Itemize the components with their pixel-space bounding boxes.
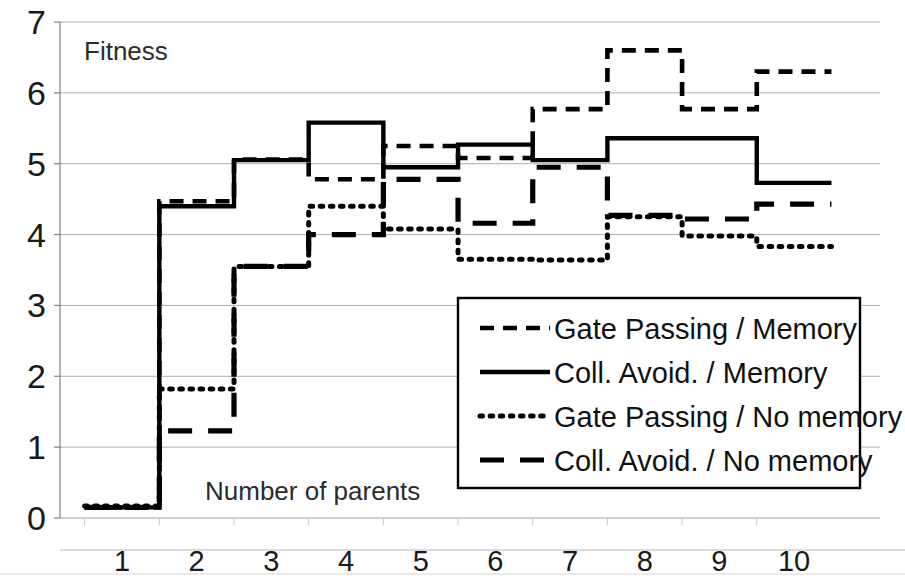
x-tick-label: 3	[263, 545, 279, 577]
fitness-line-chart: 01234567 12345678910 FitnessNumber of pa…	[0, 0, 905, 580]
y-tick-label: 7	[27, 3, 46, 41]
x-tick-label: 8	[637, 545, 653, 577]
x-tick-label: 9	[711, 545, 727, 577]
x-tick-label: 6	[487, 545, 503, 577]
y-tick-label: 3	[27, 286, 46, 324]
y-axis-title: Fitness	[84, 36, 168, 66]
x-tick-label: 7	[562, 545, 578, 577]
legend-label: Coll. Avoid. / No memory	[554, 445, 873, 477]
y-tick-label: 5	[27, 145, 46, 183]
x-axis-title: Number of parents	[205, 476, 420, 506]
x-tick-label: 10	[778, 545, 810, 577]
x-tick-label: 4	[338, 545, 354, 577]
legend-label: Coll. Avoid. / Memory	[554, 357, 828, 389]
y-axis-tick-labels: 01234567	[27, 3, 46, 537]
y-tick-label: 0	[27, 499, 46, 537]
legend-label: Gate Passing / Memory	[554, 313, 857, 345]
y-tick-label: 6	[27, 74, 46, 112]
x-tick-label: 2	[189, 545, 205, 577]
x-tick-label: 5	[413, 545, 429, 577]
legend-label: Gate Passing / No memory	[554, 401, 903, 433]
axis-titles: FitnessNumber of parents	[84, 36, 420, 506]
x-tick-label: 1	[114, 545, 130, 577]
chart-root: 01234567 12345678910 FitnessNumber of pa…	[0, 0, 905, 580]
y-tick-label: 4	[27, 216, 46, 254]
chart-legend[interactable]: Gate Passing / MemoryColl. Avoid. / Memo…	[458, 298, 903, 488]
y-tick-label: 1	[27, 428, 46, 466]
y-tick-label: 2	[27, 357, 46, 395]
